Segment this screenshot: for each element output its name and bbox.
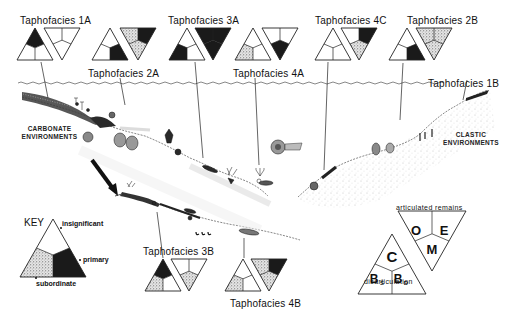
clastic-line-1: CLASTIC: [436, 131, 506, 139]
label-taphofacies-3a: Taphofacies 3A: [168, 15, 239, 26]
label-taphofacies-3b: Taphofacies 3B: [143, 246, 214, 257]
clastic-environments-label: CLASTIC ENVIRONMENTS: [436, 131, 506, 147]
label-taphofacies-4a: Taphofacies 4A: [233, 68, 304, 79]
clastic-slope: [298, 90, 495, 208]
key-subordinate-label: subordinate: [36, 280, 76, 287]
disarticulation-label: disarticulation: [364, 278, 413, 285]
key-insignificant-label: insignificant: [62, 220, 103, 227]
label-taphofacies-4b: Taphofacies 4B: [230, 298, 301, 309]
articulated-remains-label: articulated remains: [396, 204, 463, 211]
carbonate-slope: [22, 92, 300, 240]
ammonite-icon: [271, 140, 302, 154]
carbonate-line-1: CARBONATE: [17, 125, 82, 133]
key-primary-label: primary: [83, 256, 109, 263]
carbonate-line-2: ENVIRONMENTS: [17, 133, 82, 141]
water-surface: [18, 82, 444, 84]
key-insignificant-pointer: [60, 227, 62, 229]
class-o: O: [411, 223, 421, 238]
carbonate-environments-label: CARBONATE ENVIRONMENTS: [17, 125, 82, 141]
class-c: C: [387, 248, 398, 265]
label-taphofacies-4c: Taphofacies 4C: [315, 15, 387, 26]
key-title: KEY: [24, 217, 44, 228]
label-taphofacies-2b: Taphofacies 2B: [407, 15, 478, 26]
key-subordinate-pointer: [35, 277, 37, 279]
key-primary-pointer: [79, 259, 81, 261]
class-m: M: [427, 242, 438, 257]
taphofacies-diagram: COEMBSBD: [0, 0, 513, 317]
label-taphofacies-1a: Taphofacies 1A: [20, 15, 91, 26]
label-taphofacies-1b: Taphofacies 1B: [428, 78, 499, 89]
label-taphofacies-2a: Taphofacies 2A: [88, 68, 159, 79]
clastic-line-2: ENVIRONMENTS: [436, 139, 506, 147]
class-e: E: [440, 223, 449, 238]
